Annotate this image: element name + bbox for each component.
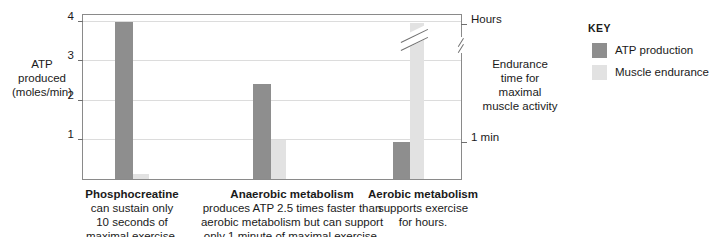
plot-area: 4 3 2 1 Hours 1 min xyxy=(82,14,462,180)
category-desc-anaerobic-line-3: only 1 minute of maximal exercise. xyxy=(175,229,409,237)
y-tick-label-3: 3 xyxy=(57,50,74,61)
legend-title: KEY xyxy=(588,22,611,34)
right-tick-mark-hours xyxy=(461,24,467,25)
bar-atp-phosphocreatine xyxy=(115,22,133,179)
y-tick-mark-1 xyxy=(78,139,83,140)
right-axis-title-line-4: muscle activity xyxy=(472,99,568,113)
y-tick-label-1: 1 xyxy=(57,129,74,140)
gridline-4 xyxy=(83,21,461,22)
category-title-aerobic: Aerobic metabolism xyxy=(340,187,506,201)
bar-break-icon xyxy=(401,33,431,55)
right-axis-title-line-2: time for xyxy=(472,71,568,85)
bar-atp-aerobic xyxy=(393,142,410,179)
category-desc-aerobic-line-2: for hours. xyxy=(340,215,506,229)
y-tick-mark-4 xyxy=(78,21,83,22)
right-tick-mark-1min xyxy=(461,142,467,143)
legend-item-atp-production: ATP production xyxy=(588,42,708,58)
y-tick-label-2: 2 xyxy=(57,90,74,101)
legend-swatch-muscle-endurance xyxy=(592,65,607,80)
right-tick-label-1min: 1 min xyxy=(471,132,519,143)
category-caption-aerobic: Aerobic metabolism supports exercise for… xyxy=(340,187,506,229)
y-tick-label-4: 4 xyxy=(57,11,74,22)
atp-production-endurance-chart: ATP produced (moles/min) 4 3 2 1 Hours 1… xyxy=(0,0,715,237)
legend-label-atp-production: ATP production xyxy=(615,44,693,57)
bar-endurance-anaerobic xyxy=(271,140,286,179)
right-axis-title-line-1: Endurance xyxy=(472,57,568,71)
category-desc-aerobic-line-1: supports exercise xyxy=(340,201,506,215)
right-tick-label-hours: Hours xyxy=(471,14,519,25)
right-axis-break-icon xyxy=(455,37,466,53)
bar-atp-anaerobic xyxy=(253,84,271,179)
chart-legend: KEY ATP production Muscle endurance xyxy=(588,14,708,86)
right-axis-title: Endurance time for maximal muscle activi… xyxy=(472,57,568,113)
bar-endurance-phosphocreatine xyxy=(133,174,149,179)
legend-item-muscle-endurance: Muscle endurance xyxy=(588,64,708,80)
y-axis-title-line-2: produced xyxy=(4,71,80,85)
right-axis-title-line-3: maximal xyxy=(472,85,568,99)
gridline-3 xyxy=(83,60,461,61)
y-tick-mark-3 xyxy=(78,60,83,61)
y-tick-mark-2 xyxy=(78,100,83,101)
gridline-2 xyxy=(83,100,461,101)
legend-swatch-atp-production xyxy=(592,43,607,58)
legend-label-muscle-endurance: Muscle endurance xyxy=(615,66,709,79)
